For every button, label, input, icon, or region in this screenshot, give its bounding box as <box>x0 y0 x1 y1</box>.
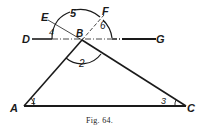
label-angle-1: 1 <box>31 96 36 106</box>
label-angle-4: 4 <box>49 27 54 37</box>
label-point-G: G <box>156 33 165 45</box>
label-angle-6: 6 <box>100 20 106 31</box>
label-point-B: B <box>76 28 83 39</box>
label-point-E: E <box>41 11 49 23</box>
label-point-D: D <box>22 33 30 45</box>
label-point-A: A <box>9 102 18 114</box>
figure-caption: Fig. 64. <box>86 116 113 125</box>
triangle-angle-diagram: A B C D E F G 1 2 3 4 5 6 Fig. 64. <box>0 0 204 131</box>
label-angle-2: 2 <box>78 58 85 69</box>
label-angle-5: 5 <box>70 7 77 19</box>
label-point-C: C <box>187 102 196 114</box>
label-angle-3: 3 <box>161 96 166 106</box>
label-point-F: F <box>102 5 109 17</box>
